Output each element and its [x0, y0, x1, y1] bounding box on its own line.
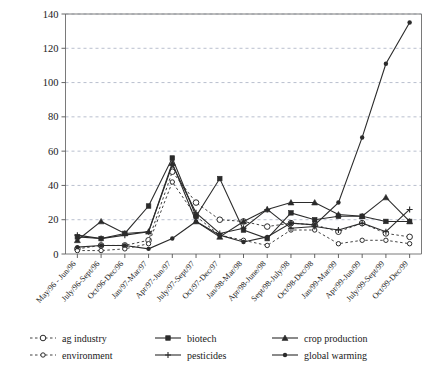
legend-item-environment[interactable]: environment [30, 350, 113, 361]
data-point [265, 243, 269, 247]
data-point [265, 235, 269, 239]
data-point [99, 248, 103, 252]
data-point [360, 135, 364, 139]
legend-label: crop production [304, 333, 368, 344]
legend-item-ag-industry[interactable]: ag industry [30, 333, 107, 344]
data-point [146, 204, 151, 209]
x-axis: May/96 - Jun/96July/96-Sept/96Oct/96-Dec… [34, 254, 410, 305]
line-chart: 020406080100120140May/96 - Jun/96July/96… [0, 0, 434, 371]
legend-item-crop-production[interactable]: crop production [272, 333, 368, 344]
data-point [289, 221, 293, 225]
data-point [217, 217, 223, 223]
legend-label: global warming [304, 350, 367, 361]
data-point [384, 62, 388, 66]
data-point [241, 240, 245, 244]
data-point [99, 243, 103, 247]
legend-label: ag industry [62, 333, 107, 344]
data-point [313, 223, 317, 227]
legend-swatch-marker [166, 336, 171, 341]
legend-label: biotech [187, 333, 216, 344]
data-point [123, 243, 127, 247]
y-tick-label: 100 [43, 77, 59, 88]
legend-swatch-marker [41, 353, 45, 357]
data-point [407, 20, 411, 24]
data-point [217, 176, 222, 181]
legend-item-global-warming[interactable]: global warming [272, 350, 367, 361]
data-point [384, 238, 388, 242]
data-point [336, 200, 340, 204]
data-point [218, 233, 222, 237]
legend-label: pesticides [187, 350, 227, 361]
y-tick-label: 120 [43, 43, 59, 54]
data-point [360, 238, 364, 242]
data-point [146, 247, 150, 251]
y-tick-label: 140 [43, 9, 59, 20]
data-point [407, 234, 413, 240]
legend-swatch-marker [165, 352, 171, 358]
legend-label: environment [62, 350, 113, 361]
data-point [336, 242, 340, 246]
data-point [407, 242, 411, 246]
data-point [170, 236, 174, 240]
y-tick-label: 0 [53, 249, 58, 260]
legend-swatch-marker [283, 353, 287, 357]
y-axis: 020406080100120140 [43, 9, 66, 260]
y-tick-label: 80 [48, 111, 59, 122]
data-point [289, 211, 294, 216]
data-point [384, 219, 389, 224]
data-point [264, 224, 270, 230]
legend-item-biotech[interactable]: biotech [155, 333, 216, 344]
chart-canvas: 020406080100120140May/96 - Jun/96July/96… [0, 0, 434, 371]
legend-item-pesticides[interactable]: pesticides [155, 350, 227, 361]
data-point [193, 200, 199, 206]
data-point [75, 245, 79, 249]
data-point [146, 242, 150, 246]
x-tick-label: May/96 - Jun/96 [34, 259, 78, 305]
y-tick-label: 40 [48, 180, 59, 191]
data-point [312, 217, 317, 222]
y-tick-label: 20 [48, 214, 59, 225]
y-tick-label: 60 [48, 146, 59, 157]
data-point [170, 180, 174, 184]
data-point [194, 219, 198, 223]
legend-swatch-marker [40, 335, 46, 341]
legend: ag industrybiotechcrop productionenviron… [30, 333, 368, 361]
